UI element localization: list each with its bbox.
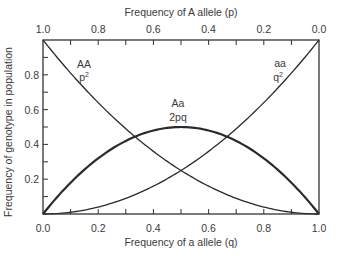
x2-tick-label: 0.0 — [312, 23, 327, 35]
y-tick-label: 0.8 — [24, 69, 39, 81]
x-tick-label: 0.8 — [256, 222, 271, 234]
x2-tick-label: 0.8 — [91, 23, 106, 35]
x-tick-label: 0.4 — [146, 222, 161, 234]
x-tick-label: 0.6 — [201, 222, 216, 234]
x2-tick-label: 0.4 — [201, 23, 216, 35]
genotype-frequency-chart: 0.00.20.40.60.81.01.00.80.60.40.20.00.20… — [0, 0, 340, 256]
label-AA: AA — [77, 58, 91, 70]
label-2pq: 2pq — [169, 111, 187, 123]
x2-tick-label: 0.2 — [256, 23, 271, 35]
label-Aa: Aa — [172, 97, 185, 109]
y-tick-label: 0.2 — [24, 173, 39, 185]
y-axis-title: Frequency of genotype in population — [2, 47, 14, 217]
x-tick-label: 0.2 — [91, 222, 106, 234]
label-q2: q2 — [273, 71, 283, 83]
x2-axis-title: Frequency of A allele (p) — [124, 6, 237, 18]
y-tick-label: 0.6 — [24, 104, 39, 116]
x-tick-label: 0.0 — [36, 222, 51, 234]
label-p2: p2 — [79, 71, 89, 83]
x-axis-title: Frequency of a allele (q) — [124, 236, 237, 248]
tick-labels: 0.00.20.40.60.81.01.00.80.60.40.20.00.20… — [24, 23, 326, 234]
y-tick-label: 0.4 — [24, 138, 39, 150]
x2-tick-label: 0.6 — [146, 23, 161, 35]
label-aa: aa — [274, 57, 286, 69]
x2-tick-label: 1.0 — [36, 23, 51, 35]
x-tick-label: 1.0 — [312, 222, 327, 234]
